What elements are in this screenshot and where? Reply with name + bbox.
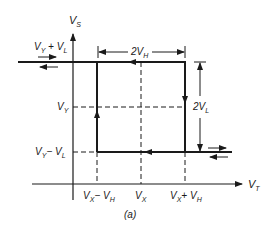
arrow-left-top-icon <box>128 59 136 65</box>
label-vx-minus-vh: VX− VH <box>83 190 116 203</box>
label-2vl: 2VL <box>192 101 209 114</box>
label-vx: VX <box>135 190 147 203</box>
label-vx-plus-vh: VX+ VH <box>170 190 203 203</box>
label-vy: VY <box>57 101 70 114</box>
arrow-down-icon <box>182 96 188 104</box>
x-axis-label: VT <box>248 178 260 192</box>
figure-caption: (a) <box>124 209 136 220</box>
y-axis-label: VS <box>69 14 81 28</box>
label-vy-minus-vl: VY− VL <box>35 146 66 159</box>
hysteresis-diagram: VS VT VY + VL VY VY− VL VX− VH VX VX+ VH… <box>0 0 274 233</box>
label-2vh: 2VH <box>130 46 149 59</box>
arrow-left-bottom-icon <box>144 149 152 155</box>
arrow-up-icon <box>94 110 100 118</box>
label-vy-plus-vl: VY + VL <box>34 41 67 54</box>
